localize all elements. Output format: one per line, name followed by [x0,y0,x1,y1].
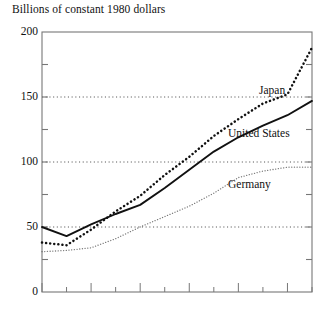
plot-area [0,0,328,315]
series-path-united-states [42,101,312,236]
gridlines [42,97,312,227]
chart-figure: Billions of constant 1980 dollars 200 15… [0,0,328,315]
series-path-japan [42,48,312,246]
series-lines [42,48,312,252]
